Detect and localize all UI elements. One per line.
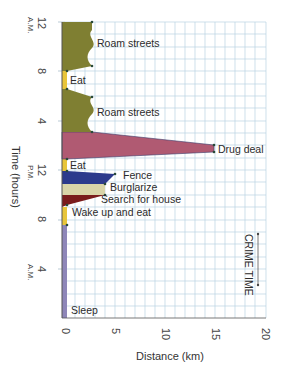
svg-text:A.M.: A.M.	[26, 264, 35, 280]
x-axis-title: Distance (km)	[136, 350, 204, 362]
y-tick-labels: 12 A.M. 8 4 12 P.M. 8 4 A.M.	[26, 17, 48, 280]
svg-text:12: 12	[36, 17, 48, 29]
segment-roam-streets-2	[62, 22, 94, 71]
label-drug-deal: Drug deal	[218, 143, 264, 155]
svg-text:8: 8	[36, 216, 48, 222]
segment-eat-evening	[62, 71, 67, 89]
x-tick-labels: 0 5 10 15 20	[60, 328, 272, 340]
label-burglarize: Burglarize	[110, 181, 157, 193]
label-fence: Fence	[123, 169, 152, 181]
svg-text:0: 0	[60, 328, 72, 334]
svg-text:4: 4	[36, 266, 48, 272]
label-eat-evening: Eat	[70, 74, 86, 86]
svg-text:20: 20	[260, 328, 272, 340]
label-roam-streets-2: Roam streets	[97, 37, 159, 49]
label-sleep: Sleep	[71, 304, 98, 316]
label-search-house: Search for house	[101, 193, 181, 205]
label-eat-noon: Eat	[70, 159, 86, 171]
grid	[65, 22, 266, 318]
svg-text:5: 5	[110, 328, 122, 334]
label-crime-time: CRIME TIME	[243, 234, 255, 296]
svg-text:12: 12	[36, 164, 48, 176]
segment-roam-streets-1	[62, 89, 94, 132]
segment-sleep	[62, 225, 67, 318]
svg-text:A.M.: A.M.	[26, 17, 35, 33]
crime-time-chart: Roam streets Eat Roam streets Drug deal …	[0, 0, 284, 376]
segment-drug-deal	[62, 132, 214, 159]
segment-eat-noon	[62, 159, 67, 171]
svg-text:8: 8	[36, 68, 48, 74]
svg-text:P.M.: P.M.	[26, 165, 35, 180]
label-roam-streets-1: Roam streets	[97, 106, 159, 118]
segment-wake-eat	[62, 207, 67, 225]
svg-text:15: 15	[210, 328, 222, 340]
segment-burglarize	[62, 184, 105, 195]
svg-text:4: 4	[36, 118, 48, 124]
svg-text:10: 10	[160, 328, 172, 340]
label-wake-eat: Wake up and eat	[72, 206, 151, 218]
y-axis-title: Time (hours)	[10, 146, 22, 208]
